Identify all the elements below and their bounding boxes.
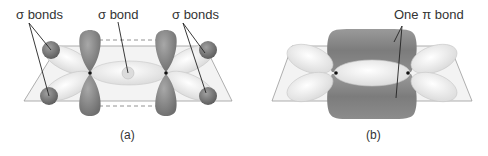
carbon-nucleus-right bbox=[164, 71, 168, 75]
hydrogen-atom-right-upper bbox=[199, 41, 217, 59]
label-sigma-bond-center: σ bond bbox=[98, 7, 139, 22]
carbon-nucleus-left bbox=[88, 71, 92, 75]
label-sigma-bonds-right: σ bonds bbox=[172, 7, 219, 22]
panel-a-sigma-framework: σ bonds σ bond σ bonds (a) bbox=[0, 0, 250, 156]
caption-b: (b) bbox=[366, 128, 381, 142]
caption-a: (a) bbox=[120, 128, 135, 142]
panel-b-pi-bond: One π bond (b) bbox=[250, 0, 488, 156]
carbon-nucleus-left bbox=[334, 71, 338, 75]
hydrogen-atom-right-lower bbox=[199, 87, 217, 105]
label-sigma-bonds-left: σ bonds bbox=[16, 7, 63, 22]
carbon-nucleus-right bbox=[406, 71, 410, 75]
label-one-pi-bond: One π bond bbox=[394, 7, 464, 22]
